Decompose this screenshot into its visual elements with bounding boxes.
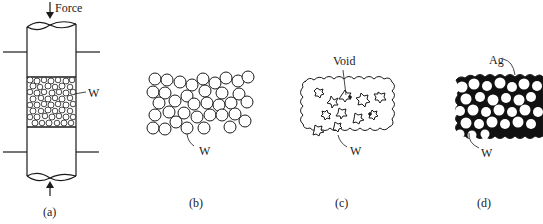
void-label: Void	[333, 55, 355, 67]
ag-label: Ag	[489, 54, 504, 66]
panel-b-w-label: W	[199, 145, 210, 157]
panel-c-sintered	[301, 70, 395, 147]
force-label: Force	[55, 2, 82, 14]
diagram-canvas	[0, 0, 543, 224]
panel-c-w-label: W	[350, 145, 361, 157]
caption-c: (c)	[335, 197, 348, 209]
panel-a-w-label: W	[88, 87, 99, 99]
caption-b: (b)	[189, 197, 203, 209]
caption-d: (d)	[477, 197, 491, 209]
caption-a: (a)	[43, 206, 56, 218]
panel-b-powder	[147, 71, 254, 146]
panel-a-die-press	[3, 2, 100, 196]
panel-d-w-label: W	[481, 147, 492, 159]
panel-a-powder-particles	[27, 77, 76, 126]
